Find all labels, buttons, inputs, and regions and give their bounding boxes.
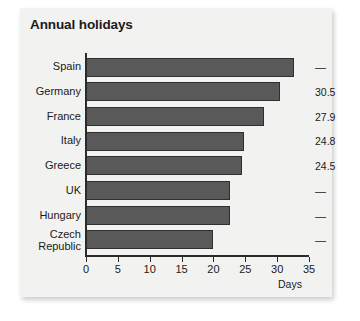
- bar: [86, 230, 213, 249]
- x-axis-tick-label: 30: [271, 263, 283, 275]
- x-axis-tick-label: 15: [175, 263, 187, 275]
- x-axis-tick: [182, 257, 183, 262]
- bar: [86, 58, 294, 77]
- category-label-line1: Czech: [38, 229, 81, 241]
- bar-row: Greece24.5: [20, 154, 332, 179]
- x-axis-tick-label: 20: [207, 263, 219, 275]
- x-axis-title: Days: [278, 278, 302, 290]
- y-axis-line: [85, 53, 87, 256]
- x-axis-tick: [213, 257, 214, 262]
- bar: [86, 206, 230, 225]
- bar: [86, 156, 242, 175]
- category-label-line2: Republic: [38, 240, 81, 252]
- category-label: Spain: [53, 62, 81, 74]
- bar: [86, 107, 264, 126]
- category-label: Italy: [61, 136, 81, 148]
- bar-value-label: 27.9: [315, 111, 335, 123]
- x-axis-tick: [86, 257, 87, 262]
- bar: [86, 132, 244, 151]
- bar-value-label: 24.8: [315, 135, 335, 147]
- x-axis-tick: [150, 257, 151, 262]
- category-label: Hungary: [39, 210, 81, 222]
- x-axis-tick: [277, 257, 278, 262]
- x-axis-tick: [245, 257, 246, 262]
- bar-row: CzechRepublic—: [20, 228, 332, 253]
- x-axis-tick-label: 35: [303, 263, 315, 275]
- bar-value-placeholder: —: [315, 210, 326, 222]
- bar-row: France27.9: [20, 104, 332, 129]
- x-axis-tick-label: 0: [83, 263, 89, 275]
- x-axis-tick-label: 25: [239, 263, 251, 275]
- category-label: Greece: [45, 160, 81, 172]
- bar: [86, 82, 280, 101]
- category-label: France: [47, 111, 81, 123]
- bar-row: Italy24.8: [20, 129, 332, 154]
- bar-value-placeholder: —: [315, 185, 326, 197]
- bar-value-placeholder: —: [315, 61, 326, 73]
- x-axis-tick-label: 10: [144, 263, 156, 275]
- x-axis-tick-label: 5: [115, 263, 121, 275]
- chart-card: Annual holidays Spain—Germany30.5France2…: [20, 8, 332, 297]
- bar-row: Spain—: [20, 55, 332, 80]
- category-label: Germany: [36, 86, 81, 98]
- bar-row: Hungary—: [20, 203, 332, 228]
- bar-value-label: 24.5: [315, 160, 335, 172]
- x-axis-tick: [118, 257, 119, 262]
- bar-value-placeholder: —: [315, 234, 326, 246]
- category-label: UK: [66, 185, 81, 197]
- bar-row: UK—: [20, 179, 332, 204]
- category-label: CzechRepublic: [38, 229, 81, 252]
- bar-chart-plot: Spain—Germany30.5France27.9Italy24.8Gree…: [20, 8, 332, 297]
- x-axis-tick: [309, 257, 310, 262]
- bar-value-label: 30.5: [315, 86, 335, 98]
- bar: [86, 181, 230, 200]
- bar-row: Germany30.5: [20, 80, 332, 105]
